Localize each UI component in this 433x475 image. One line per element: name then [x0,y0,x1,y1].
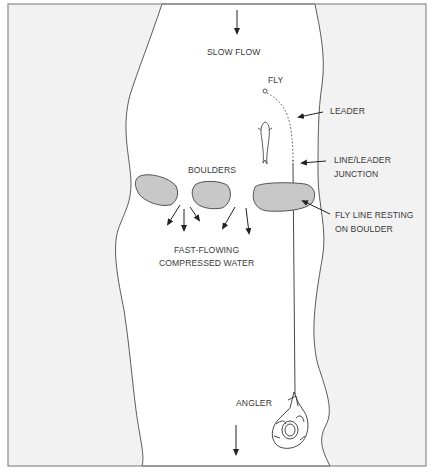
middle-boulder [192,181,230,208]
fast-water-label-line1: FAST-FLOWING [174,245,239,255]
angler-label: ANGLER [236,398,272,408]
junction-label-line1: LINE/LEADER [334,155,391,165]
fast-water-label-line2: COMPRESSED WATER [159,258,254,268]
fly-label: FLY [268,75,284,85]
river-diagram: SLOW FLOW FLY LEADER LINE/LEADER JUNCTIO… [0,0,433,475]
right-boulder [253,183,314,211]
slow-flow-label: SLOW FLOW [207,47,261,57]
junction-label-line2: JUNCTION [334,169,378,179]
boulders-label: BOULDERS [188,165,236,175]
leader-label: LEADER [330,106,365,116]
resting-label-line2: ON BOULDER [335,224,393,234]
resting-label-line1: FLY LINE RESTING [335,210,414,220]
river [116,4,330,466]
